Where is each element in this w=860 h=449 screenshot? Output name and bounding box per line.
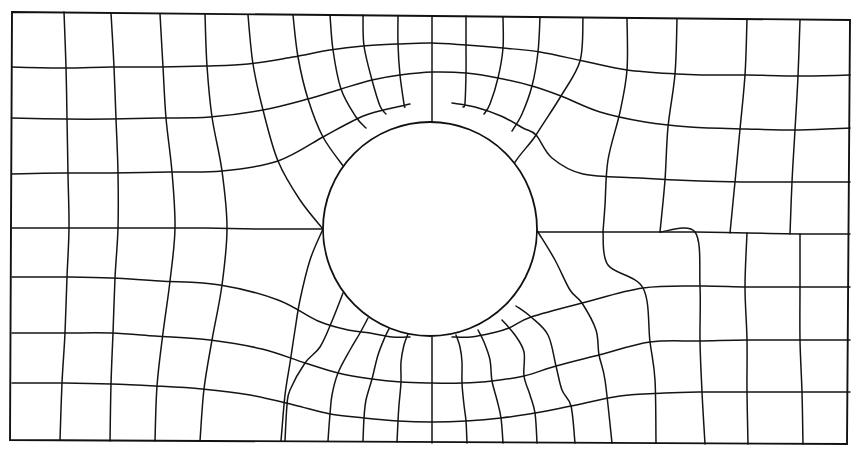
mesh-line-vertical xyxy=(248,15,323,229)
mesh-line-vertical xyxy=(484,17,503,114)
mesh-line-vertical xyxy=(363,327,390,441)
mesh-line-vertical xyxy=(463,16,466,107)
mesh-line-vertical xyxy=(330,15,366,128)
mesh-line-vertical xyxy=(478,330,503,443)
mesh-line-vertical xyxy=(660,228,705,444)
mesh-line-vertical xyxy=(516,306,575,443)
mesh-line-vertical xyxy=(790,20,800,234)
circular-hole xyxy=(323,122,537,336)
mesh-line-vertical xyxy=(502,320,537,443)
mesh-line-vertical xyxy=(285,293,343,441)
mesh-line-vertical xyxy=(60,12,69,440)
mesh-line-horizontal xyxy=(12,228,323,229)
mesh-line-horizontal xyxy=(12,383,850,422)
mesh-line-vertical xyxy=(745,233,748,444)
mesh-line-vertical xyxy=(800,234,803,444)
mesh-line-vertical xyxy=(328,318,368,441)
mesh-diagram xyxy=(0,0,860,449)
mesh-line-horizontal xyxy=(538,232,850,234)
mesh-line-vertical xyxy=(397,334,408,442)
mesh-line-vertical xyxy=(363,15,386,114)
mesh-line-vertical xyxy=(603,18,628,232)
mesh-line-vertical xyxy=(110,13,118,441)
mesh-line-horizontal xyxy=(12,43,850,76)
mesh-line-vertical xyxy=(456,335,467,443)
mesh-line-vertical xyxy=(730,19,747,233)
mesh-line-horizontal xyxy=(12,333,850,383)
mesh-line-vertical xyxy=(512,17,540,131)
mesh-line-vertical xyxy=(398,16,405,107)
mesh-line-vertical xyxy=(603,232,656,443)
